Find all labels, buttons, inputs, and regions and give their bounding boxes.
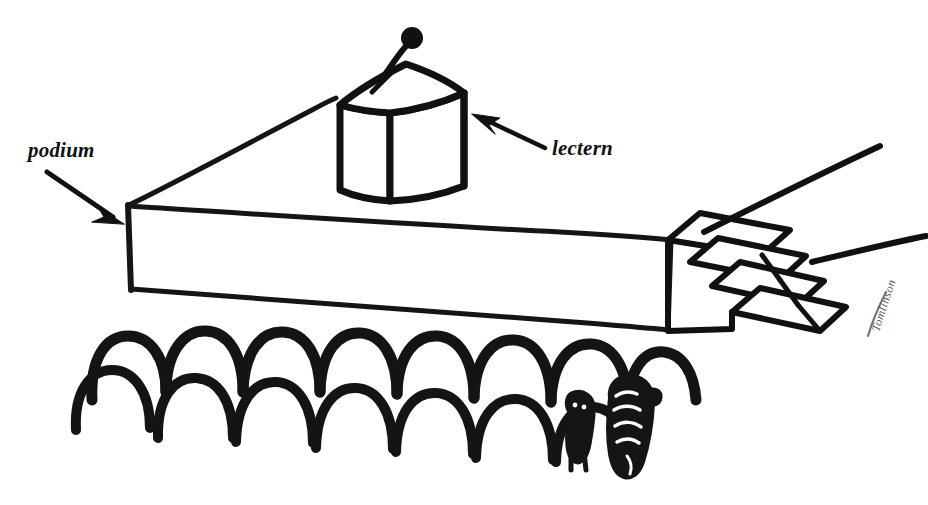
- podium-label: podium: [28, 140, 95, 161]
- microphone-head-icon: [401, 27, 423, 49]
- line-drawing-artwork: [0, 0, 928, 505]
- lectern-label: lectern: [552, 138, 613, 159]
- illustration-canvas: podium lectern Tomlinson: [0, 0, 928, 505]
